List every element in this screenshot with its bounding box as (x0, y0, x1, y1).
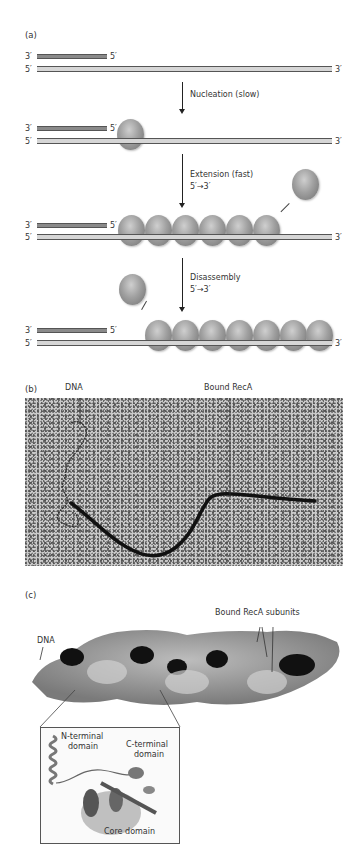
n-terminal-label-line1: N-terminal (61, 733, 103, 741)
ssdna-strand (37, 54, 107, 59)
step-arrow-down-icon (182, 154, 183, 204)
strand-end-label: 5′ (25, 66, 32, 74)
subunit-structure-inset: N-terminal domain C-terminal domain Core… (40, 727, 180, 844)
reca-subunit-icon (145, 320, 172, 351)
reca-subunit-icon (199, 215, 226, 246)
reca-subunit-icon (199, 320, 226, 351)
core-domain-label: Core domain (104, 828, 155, 836)
step-label-nucleation: Nucleation (slow) (190, 91, 259, 99)
reca-subunit-icon (253, 215, 280, 246)
strand-end-label: 5′ (110, 222, 117, 230)
step-label-extension: Extension (fast) (190, 171, 253, 179)
strand-end-label: 3′ (335, 234, 342, 242)
c-terminal-label-line2: domain (134, 751, 164, 759)
dsdna-strand (37, 234, 332, 240)
panel-a-label: (a) (25, 30, 37, 40)
reca-subunit-icon (172, 320, 199, 351)
callout-dna: DNA (65, 384, 83, 392)
dsdna-strand (37, 66, 332, 72)
step-label-disassembly-direction: 5′→3′ (190, 286, 211, 294)
binding-arrow-icon (281, 203, 290, 212)
reca-subunit-icon (118, 215, 145, 246)
callout-bound-reca-subunits: Bound RecA subunits (215, 609, 300, 617)
dsdna-strand (37, 340, 332, 346)
strand-end-label: 3′ (335, 66, 342, 74)
reca-subunit-free-icon (292, 169, 319, 200)
strand-end-label: 5′ (110, 327, 117, 335)
strand-end-label: 5′ (25, 234, 32, 242)
reca-subunit-icon (306, 320, 333, 351)
strand-end-label: 3′ (25, 327, 32, 335)
strand-end-label: 3′ (335, 138, 342, 146)
step-arrow-down-icon (182, 82, 183, 110)
release-arrow-icon (141, 301, 147, 310)
reca-subunit-free-icon (119, 274, 146, 305)
zoom-leader-lines (0, 690, 361, 730)
reca-subunit-icon (117, 119, 144, 150)
reca-subunit-icon (226, 320, 253, 351)
step-arrow-down-icon (182, 258, 183, 308)
strand-end-label: 5′ (25, 340, 32, 348)
strand-end-label: 5′ (110, 125, 117, 133)
callout-bound-reca: Bound RecA (204, 384, 252, 392)
strand-end-label: 5′ (110, 53, 117, 61)
ssdna-strand (37, 328, 107, 333)
reca-subunit-icon (145, 215, 172, 246)
strand-end-label: 5′ (25, 138, 32, 146)
n-terminal-label-line2: domain (68, 743, 98, 751)
strand-end-label: 3′ (335, 340, 342, 348)
reca-subunit-icon (172, 215, 199, 246)
ssdna-strand (37, 223, 107, 228)
panel-c-label: (c) (25, 590, 36, 600)
reca-subunit-icon (226, 215, 253, 246)
step-label-disassembly: Disassembly (190, 274, 241, 282)
c-terminal-label-line1: C-terminal (126, 741, 168, 749)
reca-subunit-icon (280, 320, 307, 351)
strand-end-label: 3′ (25, 53, 32, 61)
strand-end-label: 3′ (25, 125, 32, 133)
ssdna-strand (37, 126, 107, 131)
strand-end-label: 3′ (25, 222, 32, 230)
electron-micrograph (25, 398, 343, 566)
dsdna-strand (37, 138, 332, 144)
reca-subunit-icon (253, 320, 280, 351)
panel-b-label: (b) (25, 384, 37, 394)
step-label-extension-direction: 5′→3′ (190, 183, 211, 191)
dna-filament-trace (25, 398, 343, 566)
